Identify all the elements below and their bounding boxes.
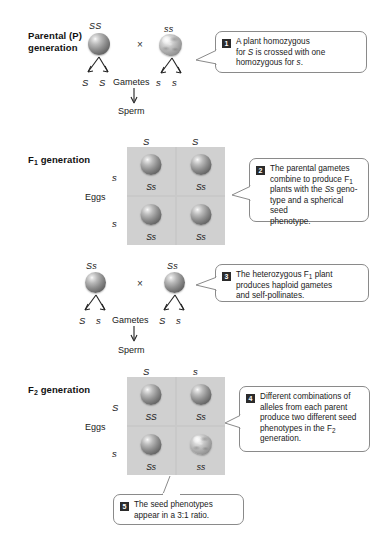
f1-cell-3-genotype: Ss	[127, 232, 175, 242]
p-left-genotype: SS	[89, 21, 101, 31]
f2-punnett-square: SS Ss Ss ss	[127, 377, 225, 475]
f1-cell-2-genotype: Ss	[177, 182, 225, 192]
f2-sperm-header-2: s	[193, 366, 198, 377]
f1-cell-1: Ss	[127, 147, 175, 195]
f2-label-sub: 2	[34, 389, 38, 396]
f1cross-right-genotype: Ss	[167, 261, 178, 271]
f2-cell-2-seed	[190, 384, 211, 405]
f1cross-left-gamete-2: s	[96, 315, 101, 326]
callout-2-tail	[224, 183, 252, 205]
callout-2: 2 The parental gametescombine to produce…	[249, 158, 369, 222]
p-sperm-arrow	[128, 88, 140, 105]
parental-label-line2: generation	[28, 42, 78, 53]
f2-cell-2: Ss	[177, 377, 225, 425]
callout-2-text: The parental gametescombine to produce F…	[270, 164, 361, 228]
parental-generation-label: Parental (P) generation	[28, 30, 82, 53]
f1cross-left-seed	[85, 272, 106, 293]
f1cross-left-genotype: Ss	[86, 261, 97, 271]
f1-cell-2: Ss	[177, 147, 225, 195]
callout-1: 1 A plant homozygousfor S is crossed wit…	[215, 31, 367, 73]
f1cross-gametes-label: Gametes	[112, 315, 149, 325]
p-right-gamete-1: s	[156, 77, 161, 88]
p-left-gamete-arrows	[79, 56, 121, 78]
f2-sperm-label: Sperm	[118, 345, 145, 355]
callout-3-badge: 3	[222, 272, 231, 281]
callout-5-tail	[160, 476, 184, 496]
p-right-genotype: ss	[164, 24, 173, 34]
f1cross-left-gamete-1: S	[79, 315, 85, 326]
f1cross-symbol: ×	[137, 278, 143, 289]
p-left-gamete-1: S	[82, 77, 88, 88]
callout-4-badge: 4	[246, 394, 255, 403]
f1-cell-4-genotype: Ss	[177, 232, 225, 242]
f1-cell-4-seed	[190, 204, 211, 225]
p-left-seed-spherical	[88, 33, 110, 55]
f2-egg-header-1: S	[112, 402, 118, 413]
f1-sperm-header-2: S	[192, 136, 198, 147]
f2-generation-label: F2 generation	[28, 384, 90, 397]
f2-cell-2-genotype: Ss	[177, 412, 225, 422]
f1-cell-2-seed	[190, 154, 211, 175]
f2-cell-1: SS	[127, 377, 175, 425]
f2-cell-4-seed-wrinkled	[190, 434, 212, 455]
f1cross-right-gamete-arrows	[155, 294, 197, 316]
f1-cell-1-seed	[141, 154, 162, 175]
callout-2-badge: 2	[256, 166, 265, 175]
f1-punnett-square: Ss Ss Ss Ss	[127, 147, 225, 245]
f2-eggs-label: Eggs	[85, 422, 106, 432]
f2-cell-3-genotype: Ss	[127, 462, 175, 472]
f1-cell-3: Ss	[127, 197, 175, 245]
callout-5-text: The seed phenotypesappear in a 3:1 ratio…	[134, 500, 213, 521]
f1-cell-3-seed	[141, 204, 162, 225]
f1-egg-header-1: s	[112, 172, 117, 183]
callout-1-text: A plant homozygousfor S is crossed with …	[236, 37, 325, 69]
f1-eggs-label: Eggs	[85, 192, 106, 202]
f2-cell-1-seed	[141, 384, 162, 405]
f1-sperm-header-1: S	[143, 136, 149, 147]
callout-3-text: The heterozygous F1 plantproduces haploi…	[236, 270, 332, 302]
f1-egg-header-2: s	[112, 218, 117, 229]
callout-4-tail	[222, 412, 242, 434]
parental-label-line1: Parental (P)	[28, 30, 82, 41]
f2-sperm-arrow	[128, 326, 140, 343]
callout-4-text: Different combinations ofalleles from ea…	[260, 392, 356, 445]
f2-egg-header-2: s	[112, 448, 117, 459]
f2-sperm-header-1: S	[143, 366, 149, 377]
f2-cell-3-seed	[141, 434, 162, 455]
p-gametes-label: Gametes	[113, 77, 150, 87]
p-right-seed-wrinkled	[159, 34, 182, 56]
callout-5: 5 The seed phenotypesappear in a 3:1 rat…	[113, 494, 244, 525]
f1-generation-label: F1 generation	[28, 154, 90, 167]
f2-cell-4-genotype: ss	[177, 462, 225, 472]
callout-1-badge: 1	[222, 39, 231, 48]
f1cross-right-gamete-2: s	[176, 315, 181, 326]
genetics-punnett-figure: Parental (P) generation SS × ss S S s s …	[0, 0, 373, 540]
f1-label-rest: generation	[38, 154, 90, 165]
f1cross-right-gamete-1: S	[159, 315, 165, 326]
f1-cell-1-genotype: Ss	[127, 182, 175, 192]
callout-4: 4 Different combinations ofalleles from …	[239, 386, 370, 452]
f1cross-right-seed	[164, 272, 185, 293]
f2-cell-1-genotype: SS	[127, 412, 175, 422]
p-cross-symbol: ×	[137, 39, 143, 50]
f1-cell-4: Ss	[177, 197, 225, 245]
callout-3: 3 The heterozygous F1 plantproduces hapl…	[215, 264, 369, 302]
f1cross-left-gamete-arrows	[76, 294, 118, 316]
p-right-gamete-2: s	[172, 77, 177, 88]
f2-cell-4: ss	[177, 427, 225, 475]
f2-label-rest: generation	[38, 384, 90, 395]
callout-5-badge: 5	[120, 502, 129, 511]
p-sperm-label: Sperm	[118, 106, 145, 116]
f1-label-sub: 1	[34, 159, 38, 166]
callout-3-tail	[186, 274, 218, 296]
p-left-gamete-2: S	[99, 77, 105, 88]
f2-cell-3: Ss	[127, 427, 175, 475]
callout-1-tail	[184, 46, 218, 68]
